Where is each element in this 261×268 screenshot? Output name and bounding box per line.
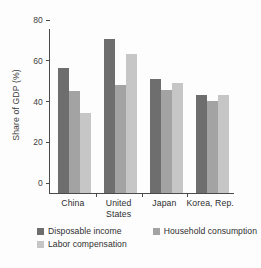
legend-item[interactable]: Disposable income xyxy=(37,226,153,236)
y-tick-mark xyxy=(46,20,50,21)
bar-group xyxy=(196,30,229,193)
bar xyxy=(161,90,172,193)
x-category-label-line: Korea, Rep. xyxy=(181,198,239,209)
bar xyxy=(80,113,91,193)
bar-group xyxy=(58,30,91,193)
x-tick-mark xyxy=(142,193,143,197)
y-tick-label: 0 xyxy=(38,178,46,188)
bar xyxy=(58,68,69,193)
y-tick-60: 60 xyxy=(33,56,50,66)
x-category-label: Korea, Rep. xyxy=(181,198,239,209)
legend-item[interactable]: Household consumption xyxy=(153,226,257,236)
chart-figure: Share of GDP (%) 020406080 ChinaUnitedSt… xyxy=(0,0,261,268)
bar xyxy=(126,54,137,193)
bar-group xyxy=(150,30,183,193)
legend-swatch-icon xyxy=(153,228,160,235)
y-axis-title: Share of GDP (%) xyxy=(9,50,23,160)
bar xyxy=(104,39,115,193)
legend-label: Household consumption xyxy=(164,226,257,236)
plot-area: 020406080 xyxy=(50,30,233,193)
legend-row: Disposable incomeHousehold consumption xyxy=(37,226,257,236)
legend-label: Disposable income xyxy=(48,226,121,236)
x-category-label-line: States xyxy=(90,209,148,220)
y-tick-mark xyxy=(46,60,50,61)
legend-swatch-icon xyxy=(37,228,44,235)
y-tick-20: 20 xyxy=(33,137,50,147)
y-tick-label: 60 xyxy=(33,56,46,66)
bar xyxy=(196,95,207,193)
y-tick-40: 40 xyxy=(33,97,50,107)
y-tick-label: 80 xyxy=(33,15,46,25)
legend-row: Labor compensation xyxy=(37,239,257,249)
x-tick-mark xyxy=(96,193,97,197)
legend-item[interactable]: Labor compensation xyxy=(37,239,127,249)
bar xyxy=(218,95,229,193)
bar xyxy=(207,101,218,193)
bar xyxy=(115,85,126,193)
chart-legend: Disposable incomeHousehold consumptionLa… xyxy=(37,226,257,252)
bar xyxy=(150,79,161,193)
bar-group xyxy=(104,30,137,193)
bar xyxy=(69,91,80,193)
y-axis-title-text: Share of GDP (%) xyxy=(11,69,21,140)
legend-swatch-icon xyxy=(37,241,44,248)
y-tick-label: 20 xyxy=(33,137,46,147)
bar xyxy=(172,83,183,193)
y-tick-mark xyxy=(46,183,50,184)
y-tick-80: 80 xyxy=(33,15,50,25)
x-tick-mark xyxy=(187,193,188,197)
y-tick-label: 40 xyxy=(33,97,46,107)
y-tick-0: 0 xyxy=(38,178,50,188)
legend-label: Labor compensation xyxy=(48,239,127,249)
y-tick-mark xyxy=(46,142,50,143)
y-tick-mark xyxy=(46,101,50,102)
